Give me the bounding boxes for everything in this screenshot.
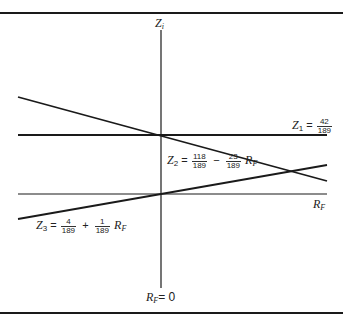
z1-sub: 1 [299, 124, 303, 133]
z1-var: Z [292, 118, 299, 132]
z1-eq: = [306, 119, 312, 131]
z3-rsub: F [121, 224, 126, 233]
z2-fraction-1: 118189 [192, 153, 207, 170]
z2-op: − [213, 154, 219, 166]
z3-sub: 3 [43, 224, 47, 233]
z2-rsub: F [252, 159, 257, 168]
z2-eq: = [181, 154, 187, 166]
axis-var: Z [155, 16, 162, 30]
z3-den1: 189 [61, 227, 76, 235]
z3-eq: = [50, 219, 56, 231]
z1-fraction: 42189 [317, 118, 332, 135]
horizontal-axis-label: RF [313, 198, 325, 212]
z2-label: Z2 = 118189 − 23189 RF [167, 153, 257, 170]
z2-fraction-2: 23189 [226, 153, 241, 170]
z3-den2: 189 [95, 227, 110, 235]
z3-op: + [82, 219, 88, 231]
line-z3 [18, 165, 327, 219]
origin-eq: = 0 [158, 290, 175, 304]
axis-sub: i [162, 22, 164, 31]
z3-fraction-2: 1189 [95, 218, 110, 235]
origin-label: RF= 0 [146, 291, 175, 305]
vertical-axis-label: Zi [155, 17, 164, 31]
z2-den2: 189 [226, 162, 241, 170]
rf-sub: F [320, 203, 325, 212]
z3-label: Z3 = 4189 + 1189 RF [36, 218, 126, 235]
z1-den: 189 [317, 127, 332, 135]
z2-den1: 189 [192, 162, 207, 170]
z3-var: Z [36, 218, 43, 232]
z2-var: Z [167, 153, 174, 167]
z2-sub: 2 [174, 159, 178, 168]
z1-label: Z1 = 42189 [292, 118, 333, 135]
z3-fraction-1: 4189 [61, 218, 76, 235]
